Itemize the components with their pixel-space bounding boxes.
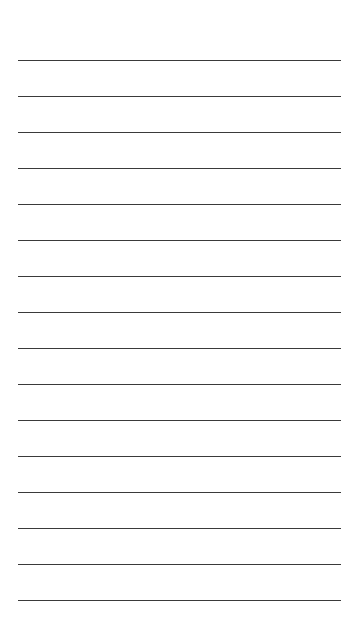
ruled-line [18, 348, 341, 349]
ruled-line [18, 492, 341, 493]
ruled-line [18, 276, 341, 277]
ruled-line [18, 96, 341, 97]
ruled-line [18, 204, 341, 205]
ruled-line [18, 60, 341, 61]
ruled-line [18, 168, 341, 169]
ruled-line [18, 420, 341, 421]
ruled-line [18, 240, 341, 241]
ruled-line [18, 456, 341, 457]
ruled-paper [0, 0, 359, 633]
ruled-line [18, 384, 341, 385]
ruled-line [18, 564, 341, 565]
ruled-line [18, 600, 341, 601]
ruled-line [18, 528, 341, 529]
ruled-line [18, 312, 341, 313]
ruled-line [18, 132, 341, 133]
